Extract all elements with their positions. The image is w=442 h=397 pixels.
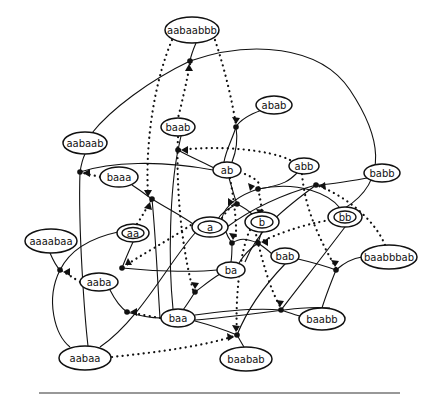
junction-dot [229, 240, 235, 246]
node-aa-accepting: aa [117, 224, 149, 242]
node-b-accepting: b [245, 212, 279, 232]
state-graph-diagram: aabaabbb aabaab baab abab baaa ab abb b [0, 0, 442, 397]
node-a-accepting: a [192, 217, 228, 237]
node-aabaa: aabaa [59, 346, 111, 370]
node-label: aabaa [70, 353, 101, 364]
node-label: b [259, 217, 265, 228]
node-label: aabaabbb [167, 25, 217, 36]
node-aabaab: aabaab [63, 132, 107, 154]
arrowhead-icon [144, 202, 152, 210]
node-label: babb [369, 168, 394, 179]
node-baa: baa [161, 309, 195, 327]
solid-edges [50, 43, 376, 347]
node-bab: bab [271, 248, 299, 264]
arrowheads [63, 64, 339, 341]
node-babb: babb [364, 164, 400, 182]
node-label: bb [339, 212, 352, 223]
arrowhead-icon [227, 333, 234, 341]
node-label: baabb [306, 314, 337, 325]
node-label: baa [169, 313, 188, 324]
node-aabaabbb: aabaabbb [165, 17, 219, 43]
junction-dots [57, 58, 339, 338]
node-ba: ba [217, 262, 245, 278]
node-label: abb [295, 161, 314, 172]
node-label: a [207, 222, 213, 233]
node-baaa: baaa [100, 167, 138, 187]
node-aaaabaa: aaaabaa [25, 229, 77, 253]
arrowhead-icon [261, 238, 268, 246]
dotted-edges [60, 40, 385, 357]
junction-dot [255, 240, 261, 246]
junction-dot [119, 265, 125, 271]
junction-dot [187, 58, 193, 64]
node-baabb: baabb [299, 308, 345, 330]
node-baabbbab: baabbbab [361, 245, 417, 269]
arrowhead-icon [331, 260, 339, 267]
arrowhead-icon [319, 182, 326, 190]
junction-dot [124, 309, 130, 315]
node-aaba: aaba [80, 273, 118, 291]
arrowhead-icon [276, 300, 284, 307]
node-label: baab [166, 122, 191, 133]
node-label: aa [127, 228, 139, 239]
node-label: baabbbab [364, 252, 414, 263]
node-label: baabab [227, 354, 264, 365]
junction-dot [234, 332, 240, 338]
junction-dot [333, 267, 339, 273]
arrowhead-icon [248, 183, 255, 191]
junction-dot [57, 267, 63, 273]
node-label: aaba [87, 277, 112, 288]
junction-dot [313, 182, 319, 188]
node-baabab: baabab [220, 347, 272, 371]
node-label: ab [221, 165, 233, 176]
arrowhead-icon [191, 282, 199, 289]
node-label: bab [276, 251, 295, 262]
node-abb: abb [289, 158, 319, 174]
node-label: aabaab [66, 138, 103, 149]
junction-dot [77, 169, 83, 175]
node-baab: baab [161, 118, 195, 136]
junction-dot [234, 201, 240, 207]
node-bb-accepting: bb [328, 207, 362, 227]
node-label: abab [262, 100, 287, 111]
junction-dot [255, 186, 261, 192]
node-abab: abab [256, 96, 292, 114]
junction-dot [233, 124, 239, 130]
junction-dot [149, 196, 155, 202]
junction-dot [278, 307, 284, 313]
arrowhead-icon [63, 268, 70, 276]
node-label: baaa [107, 172, 132, 183]
junction-dot [175, 147, 181, 153]
node-label: ba [225, 265, 237, 276]
junction-dot [192, 289, 198, 295]
node-ab: ab [213, 162, 241, 178]
arrowhead-icon [185, 64, 193, 71]
node-label: aaaabaa [29, 236, 72, 247]
